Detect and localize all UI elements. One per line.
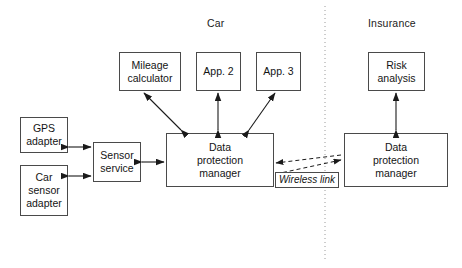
edge-dpm-to-mileage-calculator: [144, 93, 181, 130]
annotation-wireless-link: Wireless link: [275, 172, 339, 188]
connector-layer: [0, 0, 462, 268]
edge-dpm-to-app3: [249, 93, 275, 130]
diagram-canvas: Car Insurance: [0, 0, 462, 268]
